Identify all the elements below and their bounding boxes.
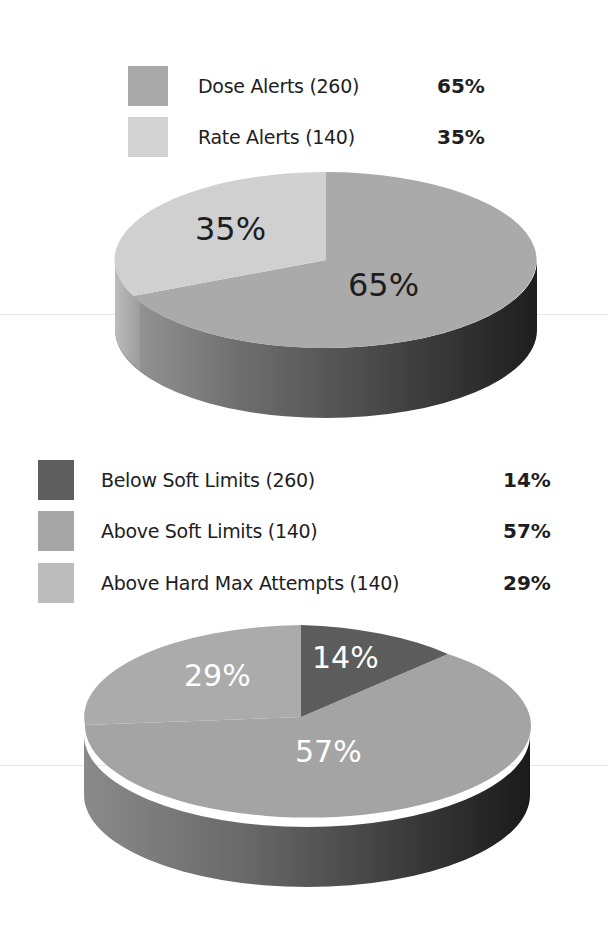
legend-percent: 14% [503, 468, 551, 492]
legend-label: Above Soft Limits (140) [101, 520, 317, 542]
pie-label: 29% [184, 658, 251, 693]
legend-item-below-soft-limits: Below Soft Limits (260) [38, 460, 315, 500]
pie-label: 14% [312, 640, 379, 675]
pie-label: 35% [195, 210, 266, 248]
legend-item-above-soft-limits: Above Soft Limits (140) [38, 511, 317, 551]
legend-percent: 57% [503, 519, 551, 543]
pie-label: 65% [348, 266, 419, 304]
legend-swatch [38, 563, 74, 603]
legend-item-above-hard-max: Above Hard Max Attempts (140) [38, 563, 399, 603]
legend-label: Above Hard Max Attempts (140) [101, 572, 399, 594]
pie-chart-alert-types: 35% 65% [0, 0, 609, 440]
pie-chart-limit-types: 14% 29% 57% [0, 600, 609, 940]
legend-percent: 29% [503, 571, 551, 595]
legend-swatch [38, 460, 74, 500]
legend-swatch [38, 511, 74, 551]
pie-label: 57% [295, 734, 362, 769]
legend-label: Below Soft Limits (260) [101, 469, 315, 491]
